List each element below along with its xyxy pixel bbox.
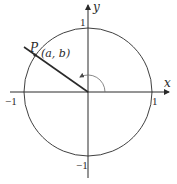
- tick-label-x-pos: 1: [152, 96, 158, 107]
- tick-label-y-pos: 1: [80, 17, 86, 28]
- x-axis-label: x: [164, 77, 171, 89]
- tick-label-x-neg: −1: [5, 96, 17, 107]
- point-p-label: P: [30, 42, 38, 54]
- y-axis-label: y: [93, 1, 100, 13]
- point-p-coordinates: (a, b): [41, 48, 70, 59]
- unit-circle-diagram: [0, 0, 177, 184]
- tick-label-y-neg: −1: [76, 160, 88, 171]
